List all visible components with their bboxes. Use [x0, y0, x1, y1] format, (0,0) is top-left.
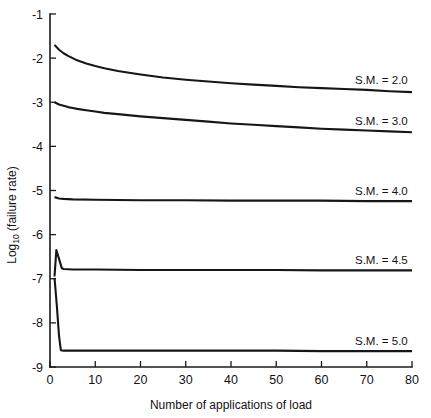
- y-tick-label: -6: [32, 228, 43, 242]
- x-tick-label: 0: [47, 373, 54, 387]
- x-tick-label: 20: [134, 373, 148, 387]
- x-tick-label: 60: [315, 373, 329, 387]
- y-axis-tick-labels: -1-2-3-4-5-6-7-8-9: [32, 8, 43, 375]
- y-axis-ticks: [50, 14, 56, 367]
- chart-figure: -1-2-3-4-5-6-7-8-9 01020304050607080 S.M…: [0, 0, 431, 418]
- y-tick-label: -7: [32, 272, 43, 286]
- y-tick-label: -2: [32, 52, 43, 66]
- series-label: S.M. = 5.0: [355, 335, 408, 347]
- x-axis-tick-labels: 01020304050607080: [47, 373, 419, 387]
- y-axis-title-text: Log10 (failure rate): [5, 166, 21, 264]
- y-tick-label: -9: [32, 361, 43, 375]
- x-tick-label: 10: [88, 373, 102, 387]
- y-axis-title-subscript: 10: [11, 234, 21, 244]
- series-label: S.M. = 4.0: [355, 185, 408, 197]
- series-label: S.M. = 4.5: [355, 254, 408, 266]
- series-label: S.M. = 2.0: [355, 74, 408, 86]
- x-tick-label: 80: [405, 373, 419, 387]
- y-tick-label: -1: [32, 8, 43, 22]
- x-tick-label: 30: [179, 373, 193, 387]
- x-tick-label: 40: [224, 373, 238, 387]
- y-tick-label: -5: [32, 184, 43, 198]
- y-axis-title: Log10 (failure rate): [5, 166, 21, 264]
- curve-s-m-4-0: [55, 197, 412, 201]
- x-tick-label: 50: [269, 373, 283, 387]
- series-label: S.M. = 3.0: [355, 115, 408, 127]
- series-labels: S.M. = 2.0S.M. = 3.0S.M. = 4.0S.M. = 4.5…: [355, 74, 408, 347]
- y-axis-title-rest: (failure rate): [5, 166, 19, 234]
- x-axis-title: Number of applications of load: [150, 398, 312, 412]
- data-curves: [55, 45, 412, 351]
- y-tick-label: -3: [32, 96, 43, 110]
- failure-rate-line-chart: -1-2-3-4-5-6-7-8-9 01020304050607080 S.M…: [0, 0, 431, 418]
- y-tick-label: -4: [32, 140, 43, 154]
- y-tick-label: -8: [32, 316, 43, 330]
- x-tick-label: 70: [360, 373, 374, 387]
- y-axis-title-main: Log: [5, 244, 19, 264]
- x-axis-ticks: [50, 361, 412, 367]
